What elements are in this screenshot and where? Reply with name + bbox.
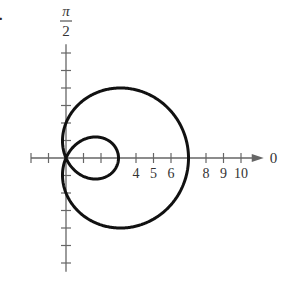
- x-tick-label: 9: [220, 166, 227, 181]
- x-tick-label: 4: [133, 166, 140, 181]
- pi-over-2-numerator: π: [62, 3, 70, 19]
- axis-labels: 45689100π2: [60, 3, 277, 181]
- x-tick-label: 8: [203, 166, 210, 181]
- x-tick-label: 6: [168, 166, 175, 181]
- polar-graph: 45689100π2: [0, 0, 287, 285]
- x-tick-label: 10: [234, 166, 248, 181]
- x-tick-label: 5: [150, 166, 157, 181]
- pi-over-2-denominator: 2: [62, 23, 70, 39]
- problem-number: 3.: [0, 8, 3, 24]
- polar-axis-label: 0: [270, 150, 278, 166]
